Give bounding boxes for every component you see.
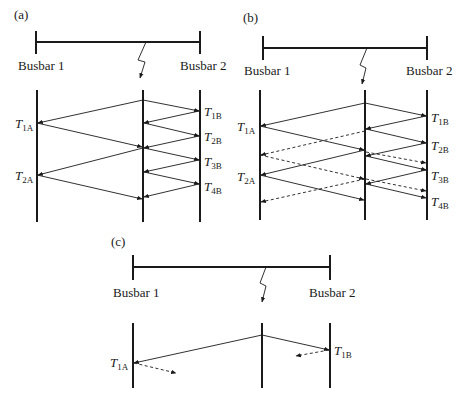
t1a-label-b: T1A [237,119,256,136]
busbar-1-label-b: Busbar 1 [244,63,291,78]
t1b-label-c: T1B [334,343,352,360]
t2b-label-a: T2B [204,129,222,146]
t3b-label-a: T3B [204,154,222,171]
t3b-label-b: T3B [431,168,449,185]
fault-icon-a [138,42,146,78]
fault-icon-b [360,48,367,84]
t2a-label-a: T2A [15,168,34,185]
t1b-label-a: T1B [204,104,222,121]
t1a-label-c: T1A [110,355,129,372]
lattice-diagram: (a) Busbar 1 Busbar 2 T1A T2A T1B T2B T3… [0,0,459,401]
panel-c-label: (c) [111,234,125,249]
t1a-label-a: T1A [15,116,34,133]
busbar-2-label-c: Busbar 2 [309,285,356,300]
panel-c: (c) Busbar 1 Busbar 2 T1A T1B [110,234,356,388]
fault-icon-c [260,267,266,302]
busbar-2-label-b: Busbar 2 [406,63,453,78]
t2b-label-b: T2B [431,138,449,155]
busbar-1-label-a: Busbar 1 [18,58,65,73]
t2a-label-b: T2A [237,169,256,186]
t1b-label-b: T1B [431,110,449,127]
busbar-1-label-c: Busbar 1 [113,285,160,300]
panel-a: (a) Busbar 1 Busbar 2 T1A T2A T1B T2B T3… [14,7,227,222]
t4b-label-a: T4B [204,179,222,196]
panel-b: (b) Busbar 1 Busbar 2 T1A T2A T1B T2B T3… [237,10,453,220]
panel-a-label: (a) [14,7,28,22]
busbar-2-label-a: Busbar 2 [180,58,227,73]
t4b-label-b: T4B [431,194,449,211]
panel-b-label: (b) [243,10,258,25]
